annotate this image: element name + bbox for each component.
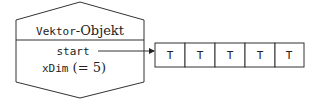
array: T T T T T xyxy=(155,43,304,67)
array-cell-label: T xyxy=(167,49,174,62)
array-cell-label: T xyxy=(227,49,234,62)
array-cell-label: T xyxy=(257,49,264,62)
field-start: start xyxy=(56,45,89,58)
object-title: Vektor-Objekt xyxy=(36,23,125,38)
array-cell-label: T xyxy=(197,49,204,62)
vector-object-diagram: Vektor-Objekt start xDim (= 5) T T T T T xyxy=(0,0,316,103)
array-cell-label: T xyxy=(286,49,293,62)
field-xdim: xDim (= 5) xyxy=(42,60,106,75)
